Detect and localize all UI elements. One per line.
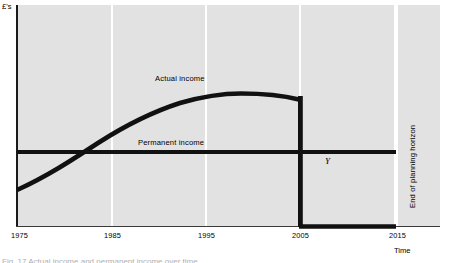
annotation-end-of-planning-horizon: End of planning horizon [405,0,417,20]
annotation-permanent-income: Permanent income [138,138,204,147]
x-axis-label: Time [394,246,411,255]
x-tick-1975: 1975 [11,231,28,240]
figure-caption: Fig. 17 Actual income and permanent inco… [2,257,198,263]
x-tick-2015: 2015 [389,231,406,240]
x-tick-1995: 1995 [198,231,215,240]
x-tick-1985: 1985 [104,231,121,240]
end-of-planning-horizon-text: End of planning horizon [408,125,417,208]
series-layer [0,0,452,263]
figure-permanent-income-chart: £'s Actual income Permanent income Y End… [0,0,452,263]
annotation-actual-income: Actual income [155,74,205,83]
x-tick-2005: 2005 [292,231,309,240]
annotation-y-symbol: Y [325,156,330,166]
